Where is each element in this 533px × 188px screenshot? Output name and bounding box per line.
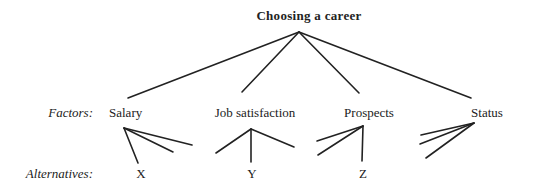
- edge-prospects-1: [317, 126, 363, 141]
- edge-prospects-2: [318, 126, 363, 155]
- alternatives-row-label: Alternatives:: [26, 167, 93, 180]
- factor-salary: Salary: [109, 106, 142, 119]
- factor-prospects: Prospects: [344, 106, 394, 119]
- edge-goal-job-satisfaction: [242, 32, 299, 92]
- edge-job-1: [216, 129, 251, 153]
- factor-status: Status: [471, 106, 503, 119]
- edge-goal-salary: [128, 32, 299, 98]
- factor-job-satisfaction: Job satisfaction: [215, 106, 296, 119]
- edge-prospects-z: [362, 126, 363, 161]
- edge-salary-3: [124, 128, 192, 145]
- diagram-title: Choosing a career: [256, 9, 361, 22]
- factors-row-label: Factors:: [48, 106, 93, 119]
- alternative-x: X: [136, 167, 145, 180]
- alternative-z: Z: [359, 167, 367, 180]
- alternative-y: Y: [247, 167, 256, 180]
- diagram-lines: [0, 0, 533, 188]
- edge-goal-status: [299, 32, 471, 98]
- edge-job-3: [251, 129, 294, 147]
- edge-goal-prospects: [299, 32, 359, 93]
